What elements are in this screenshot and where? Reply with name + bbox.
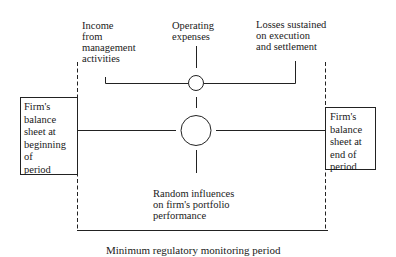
start-flow-line [78, 131, 177, 132]
operating-expenses-label: Operating expenses [172, 20, 214, 42]
losses-connector [204, 61, 296, 84]
losses-label: Losses sustained on execution and settle… [256, 19, 326, 52]
capital-flow-diagram: Income from management activities Operat… [0, 0, 396, 257]
large-junction-circle [181, 116, 211, 146]
balance-sheet-end-label: Firm's balance sheet at end of period [330, 111, 362, 174]
random-influences-label: Random influences on firm's portfolio pe… [153, 188, 234, 221]
income-label: Income from management activities [82, 20, 136, 64]
balance-sheet-start-label: Firm's balance sheet at beginning of per… [24, 101, 66, 176]
period-caption: Minimum regulatory monitoring period [106, 244, 280, 256]
income-connector [106, 77, 189, 84]
small-junction-circle [189, 76, 204, 91]
end-flow-line [216, 131, 325, 132]
